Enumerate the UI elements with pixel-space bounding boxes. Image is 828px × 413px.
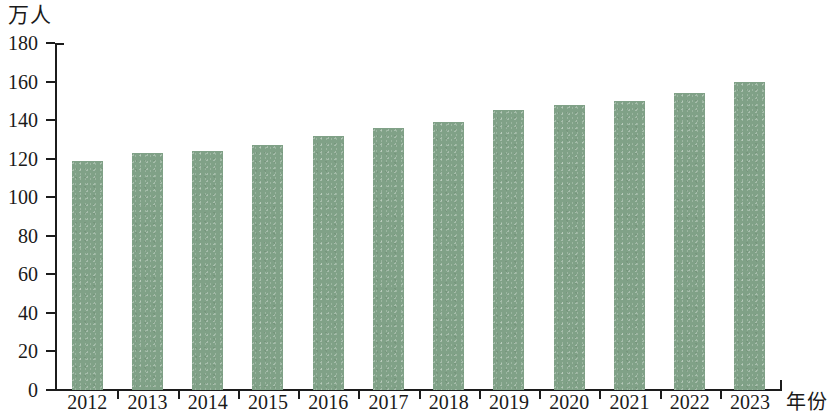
bar [72, 161, 103, 390]
y-axis-unit-label: 万人 [8, 2, 52, 28]
x-axis-tick-label: 2013 [117, 392, 177, 413]
bar [674, 93, 705, 390]
y-axis-tick [46, 196, 55, 198]
y-axis-tick [46, 42, 55, 44]
y-axis-tick [46, 119, 55, 121]
x-axis-tick-label: 2018 [419, 392, 479, 413]
y-axis-tick-label: 0 [28, 380, 38, 400]
bar [433, 122, 464, 390]
y-axis-tick [46, 158, 55, 160]
x-axis-tick-label: 2023 [720, 392, 780, 413]
x-axis-tick-label: 2015 [238, 392, 298, 413]
bar [132, 153, 163, 390]
y-axis-tick-label: 40 [18, 303, 38, 323]
y-axis-tick [46, 273, 55, 275]
y-axis-tick-label: 80 [18, 226, 38, 246]
y-axis-tick [46, 312, 55, 314]
y-axis-tick-label: 120 [8, 149, 38, 169]
bar [373, 128, 404, 390]
x-axis-title: 年份 [786, 392, 828, 413]
x-axis-tick-label: 2021 [599, 392, 659, 413]
y-axis-tick [46, 389, 55, 391]
x-axis-tick-label: 2012 [57, 392, 117, 413]
y-axis-tick [46, 81, 55, 83]
y-axis-tick-label: 140 [8, 110, 38, 130]
y-axis-tick-label: 60 [18, 264, 38, 284]
y-axis-tick [46, 350, 55, 352]
bar [493, 110, 524, 390]
x-axis-tick-label: 2022 [660, 392, 720, 413]
bar [614, 101, 645, 390]
bar [252, 145, 283, 390]
bar-chart: 万人 180160140120100806040200 201220132014… [0, 0, 828, 413]
y-axis-tick-label: 20 [18, 341, 38, 361]
x-axis-tick-label: 2017 [358, 392, 418, 413]
x-axis-tick-label: 2019 [479, 392, 539, 413]
bar [734, 82, 765, 390]
x-axis-tick-label: 2016 [298, 392, 358, 413]
x-axis-tick-label: 2020 [539, 392, 599, 413]
x-axis-tick-label: 2014 [178, 392, 238, 413]
bar [192, 151, 223, 390]
y-axis-tick-label: 180 [8, 33, 38, 53]
y-axis-tick [46, 235, 55, 237]
bar [554, 105, 585, 390]
y-axis-line [55, 43, 57, 391]
x-axis-right-cap [780, 380, 782, 391]
y-axis-tick-label: 160 [8, 72, 38, 92]
y-axis-tick-label: 100 [8, 187, 38, 207]
y-axis-top-cap [55, 43, 64, 45]
bar [313, 136, 344, 390]
